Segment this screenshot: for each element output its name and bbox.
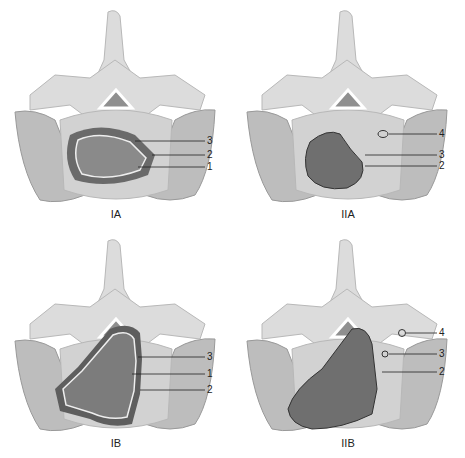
callout-1: 1 (207, 161, 213, 172)
panel-label: IA (96, 208, 136, 220)
callout-3: 3 (207, 351, 213, 362)
callout-3: 3 (439, 348, 445, 359)
panel-ib: 3 1 2 IB (0, 229, 232, 458)
callout-2: 2 (207, 149, 213, 160)
vertebra-illustration-iia (232, 0, 464, 229)
callout-2: 2 (439, 366, 445, 377)
panel-iib: 4 3 2 IIB (232, 229, 464, 458)
panel-label: IIA (328, 208, 368, 220)
callout-2: 2 (207, 384, 213, 395)
panel-iia: 4 3 2 IIA (232, 0, 464, 229)
callout-4: 4 (439, 327, 445, 338)
panel-ia: 3 2 1 IA (0, 0, 232, 229)
vertebra-illustration-ia (0, 0, 232, 229)
callout-2: 2 (439, 160, 445, 171)
panel-label: IIB (328, 437, 368, 449)
callout-3: 3 (439, 149, 445, 160)
vertebra-illustration-iib (232, 229, 464, 458)
callout-3: 3 (207, 135, 213, 146)
callout-1: 1 (207, 368, 213, 379)
vertebra-illustration-ib (0, 229, 232, 458)
panel-label: IB (96, 437, 136, 449)
callout-4: 4 (439, 128, 445, 139)
